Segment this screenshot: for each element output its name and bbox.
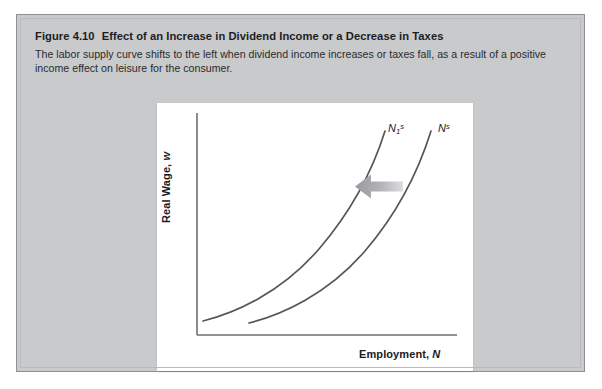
caption-body-text: The labor supply curve shifts to the lef… — [35, 48, 555, 75]
curve-label-ns: Ns — [438, 122, 450, 134]
plot-axes — [197, 113, 457, 335]
labor-supply-curve-shifted — [203, 131, 385, 321]
curve-label-n1s-base: N — [388, 122, 396, 134]
labor-supply-plot — [157, 103, 473, 371]
curve-label-ns-base: N — [438, 122, 446, 134]
figure-caption: Figure 4.10Effect of an Increase in Divi… — [35, 29, 567, 75]
leftward-shift-arrow-icon — [355, 175, 403, 199]
chart-panel — [157, 103, 473, 371]
x-axis-label: Employment, N — [359, 348, 440, 360]
curve-label-n1s: N1s — [388, 122, 404, 136]
figure-container: Figure 4.10Effect of an Increase in Divi… — [16, 14, 585, 372]
caption-title-line: Figure 4.10Effect of an Increase in Divi… — [35, 29, 567, 43]
figure-page: Figure 4.10Effect of an Increase in Divi… — [0, 0, 602, 389]
arrow-shape — [355, 175, 403, 199]
y-axis-label-text: Real Wage, w — [160, 152, 172, 223]
x-axis-label-text: Employment, N — [359, 348, 440, 360]
labor-supply-curve-original — [249, 131, 431, 323]
y-axis-label: Real Wage, w — [160, 207, 260, 223]
curve-label-n1s-sup: s — [400, 122, 404, 131]
figure-number-label: Figure 4.10 — [35, 30, 95, 42]
figure-title: Effect of an Increase in Dividend Income… — [102, 30, 444, 42]
curve-label-ns-sup: s — [446, 122, 450, 131]
